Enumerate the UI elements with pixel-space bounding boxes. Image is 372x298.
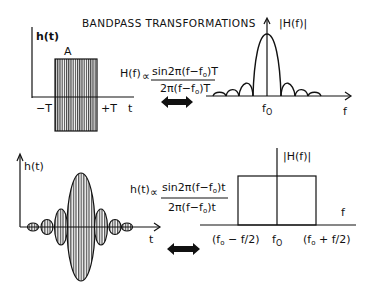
x-axis-label: t xyxy=(128,102,133,115)
x-axis-label: t xyxy=(149,233,154,246)
formula-lhs: H(f) xyxy=(120,67,141,80)
tick-plus-t: +T xyxy=(101,102,117,115)
top-right-freq-plot: |H(f)| fO f xyxy=(206,17,351,118)
y-axis-label: |H(f)| xyxy=(279,17,307,30)
side-lobe xyxy=(295,90,308,96)
double-arrow-icon xyxy=(167,243,200,255)
formula-lhs: h(t) xyxy=(130,183,150,196)
diagram-title: BANDPASS TRANSFORMATIONS xyxy=(82,17,256,29)
formula-numerator: sin2π(f−fo)t xyxy=(162,181,226,195)
center-frequency-label: fO xyxy=(262,102,272,117)
y-axis-label: |H(f)| xyxy=(283,150,311,163)
formula-numerator: sin2π(f−fo)T xyxy=(152,65,218,79)
y-axis-label: h(t) xyxy=(36,30,59,43)
formula-denominator: 2π(f−fo)T xyxy=(160,82,210,96)
top-left-time-plot: h(t) A −T +T t xyxy=(32,27,134,131)
proportional-symbol: ∝ xyxy=(150,186,158,199)
bandpass-diagram: BANDPASS TRANSFORMATIONS h(t) A −T +T t … xyxy=(0,0,372,298)
double-arrow-icon xyxy=(161,96,193,108)
side-lobe xyxy=(226,90,239,96)
center-frequency-label: fO xyxy=(272,233,282,248)
tick-minus-t: −T xyxy=(36,102,52,115)
bottom-left-time-plot: h(t) t xyxy=(17,154,160,281)
top-formula: H(f) ∝ sin2π(f−fo)T 2π(f−fo)T xyxy=(120,65,218,96)
side-lobe xyxy=(239,83,253,96)
x-axis-label: f xyxy=(343,105,348,118)
upper-band-edge-label: (fo + f/2) xyxy=(303,233,351,247)
rect-pulse xyxy=(55,59,97,131)
lower-band-edge-label: (fo − f/2) xyxy=(212,233,260,247)
formula-denominator: 2π(f−fo)t xyxy=(168,201,216,215)
y-axis-label: h(t) xyxy=(24,160,44,173)
bottom-formula: h(t) ∝ sin2π(f−fo)t 2π(f−fo)t xyxy=(130,181,228,215)
amplitude-label: A xyxy=(64,45,72,58)
side-lobe xyxy=(281,83,295,96)
x-axis-label: f xyxy=(341,206,346,219)
proportional-symbol: ∝ xyxy=(142,70,150,83)
